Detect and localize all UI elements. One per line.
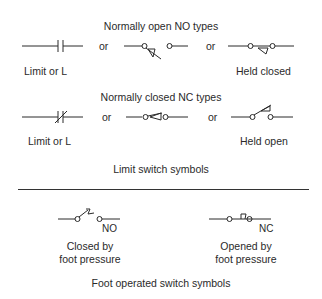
nc-types-heading: Normally closed NC types <box>0 91 322 103</box>
symbol-label: foot pressure <box>40 253 140 265</box>
symbol-label: Closed by <box>40 240 140 252</box>
or-separator: or <box>99 40 108 52</box>
limit-switch-no-icon <box>124 38 194 60</box>
or-separator: or <box>102 111 111 123</box>
contact-no-icon <box>20 40 85 52</box>
section-divider <box>18 189 309 190</box>
symbol-label: Held open <box>240 135 288 147</box>
foot-switch-nc-icon <box>209 210 279 224</box>
no-types-heading: Normally open NO types <box>0 20 322 32</box>
limit-switch-nc-icon <box>126 110 196 124</box>
or-separator: or <box>206 40 215 52</box>
no-tag: NO <box>102 223 117 235</box>
symbol-label: Limit or L <box>24 65 67 77</box>
nc-tag: NC <box>259 223 273 235</box>
limit-switch-caption: Limit switch symbols <box>0 163 322 175</box>
foot-switch-caption: Foot operated switch symbols <box>0 277 322 289</box>
symbol-label: foot pressure <box>196 253 296 265</box>
symbol-label: Opened by <box>196 240 296 252</box>
symbol-label: Held closed <box>236 65 291 77</box>
or-separator: or <box>208 111 217 123</box>
limit-switch-nc-held-open-icon <box>231 104 301 124</box>
limit-switch-no-held-closed-icon <box>228 38 298 58</box>
symbol-label: Limit or L <box>28 135 71 147</box>
contact-nc-icon <box>20 110 85 124</box>
